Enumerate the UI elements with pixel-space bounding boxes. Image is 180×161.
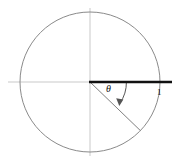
- unit-circle-figure: θ 1: [0, 0, 180, 161]
- figure-canvas: θ 1: [0, 0, 180, 161]
- radius-length-label: 1: [157, 87, 162, 97]
- angle-arc-arrowhead: [116, 98, 123, 106]
- terminal-side-radius: [90, 82, 140, 131]
- theta-label: θ: [106, 83, 111, 94]
